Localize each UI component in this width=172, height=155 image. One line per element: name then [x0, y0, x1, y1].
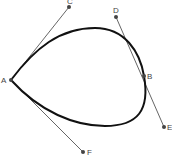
tangent-line-de	[116, 17, 164, 127]
point-d[interactable]	[114, 15, 118, 19]
label-c: C	[67, 0, 73, 6]
label-e: E	[167, 123, 172, 132]
label-f: F	[87, 148, 92, 155]
point-f[interactable]	[81, 150, 85, 154]
label-d: D	[113, 6, 119, 15]
point-b[interactable]	[142, 74, 146, 78]
point-a[interactable]	[9, 78, 13, 82]
bezier-diagram: A B C D E F	[0, 0, 172, 155]
label-a: A	[1, 76, 7, 85]
label-b: B	[147, 72, 152, 81]
closed-curve	[11, 28, 145, 126]
point-e[interactable]	[162, 125, 166, 129]
